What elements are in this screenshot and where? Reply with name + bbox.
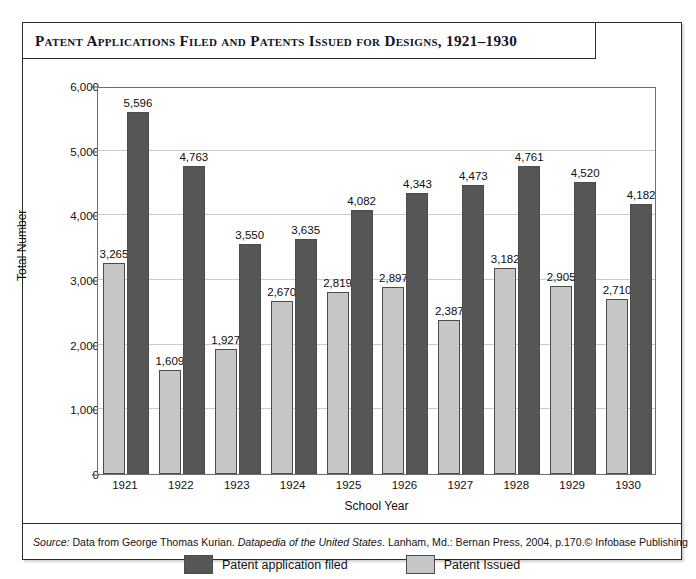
bar-1930-filed (630, 204, 652, 474)
bar-1928-issued (494, 268, 516, 474)
bar-1922-issued (159, 370, 181, 474)
bar-1921-filed (127, 112, 149, 474)
bar-1924-filed (295, 239, 317, 474)
x-tick-label-1926: 1926 (392, 479, 418, 491)
y-tick-label: 6,000 (39, 81, 99, 93)
bar-value-label: 2,905 (547, 271, 576, 283)
bar-1926-filed (406, 193, 428, 474)
figure-frame: Patent Applications Filed and Patents Is… (22, 22, 682, 560)
bar-value-label: 2,819 (323, 277, 352, 289)
bar-value-label: 4,761 (515, 151, 544, 163)
source-prefix: Source: (33, 536, 70, 548)
x-tick-label-1927: 1927 (448, 479, 474, 491)
bar-value-label: 2,897 (379, 272, 408, 284)
legend-label: Patent application filed (222, 558, 348, 572)
bar-value-label: 4,520 (571, 167, 600, 179)
bar-value-label: 5,596 (124, 97, 153, 109)
bar-value-label: 3,265 (100, 248, 129, 260)
bar-1925-filed (351, 210, 373, 474)
source-title: Datapedia of the United States (238, 536, 382, 548)
bar-value-label: 4,343 (403, 178, 432, 190)
bar-value-label: 3,182 (491, 253, 520, 265)
x-tick-label-1922: 1922 (168, 479, 194, 491)
bar-value-label: 2,710 (603, 284, 632, 296)
legend-label: Patent Issued (444, 558, 520, 572)
figure-footer: Source: Data from George Thomas Kurian. … (23, 523, 681, 559)
x-axis-label: School Year (97, 499, 656, 513)
bar-1927-filed (462, 185, 484, 474)
y-tick-label: 1,000 (39, 404, 99, 416)
bar-1930-issued (606, 299, 628, 474)
page-title: Patent Applications Filed and Patents Is… (23, 32, 517, 50)
bar-1921-issued (103, 263, 125, 474)
x-tick-label-1929: 1929 (559, 479, 585, 491)
bar-value-label: 1,609 (155, 355, 184, 367)
chart-page: Patent Applications Filed and Patents Is… (0, 0, 696, 579)
bar-value-label: 4,763 (179, 151, 208, 163)
source-text-1: Data from George Thomas Kurian. (70, 536, 238, 548)
bar-1925-issued (327, 292, 349, 474)
y-tick-label: 2,000 (39, 340, 99, 352)
x-tick-label-1921: 1921 (112, 479, 138, 491)
bar-1927-issued (438, 320, 460, 474)
bar-value-label: 4,182 (627, 189, 656, 201)
bar-value-label: 1,927 (211, 334, 240, 346)
bar-1929-filed (574, 182, 596, 474)
y-tick-label: 4,000 (39, 210, 99, 222)
x-tick-label-1930: 1930 (615, 479, 641, 491)
bar-1922-filed (183, 166, 205, 474)
y-tick-label: 5,000 (39, 146, 99, 158)
plot-box: 3,2655,5961,6094,7631,9273,5502,6703,635… (97, 87, 656, 475)
bar-1923-filed (239, 244, 261, 474)
gridline (98, 214, 655, 215)
bar-1926-issued (382, 287, 404, 474)
x-tick-label-1923: 1923 (224, 479, 250, 491)
bar-1928-filed (518, 166, 540, 474)
y-axis-label: Total Number (15, 210, 29, 281)
chart-plot-area: Total Number 01,0002,0003,0004,0005,0006… (23, 60, 681, 523)
y-tick-label: 0 (39, 469, 99, 481)
bar-value-label: 3,635 (291, 224, 320, 236)
bar-1929-issued (550, 286, 572, 474)
x-tick-label-1925: 1925 (336, 479, 362, 491)
source-text-2: . Lanham, Md.: Bernan Press, 2004, p.170… (382, 536, 585, 548)
x-tick-label-1928: 1928 (503, 479, 529, 491)
y-tick-label: 3,000 (39, 275, 99, 287)
bar-value-label: 4,082 (347, 195, 376, 207)
bar-value-label: 2,670 (267, 286, 296, 298)
x-tick-label-1924: 1924 (280, 479, 306, 491)
bar-value-label: 2,387 (435, 305, 464, 317)
bar-1923-issued (215, 349, 237, 474)
source-note: Source: Data from George Thomas Kurian. … (33, 536, 585, 548)
bar-value-label: 4,473 (459, 170, 488, 182)
bar-value-label: 3,550 (235, 229, 264, 241)
copyright-notice: © Infobase Publishing (585, 536, 690, 548)
bar-1924-issued (271, 301, 293, 474)
chart-title-box: Patent Applications Filed and Patents Is… (23, 23, 596, 59)
